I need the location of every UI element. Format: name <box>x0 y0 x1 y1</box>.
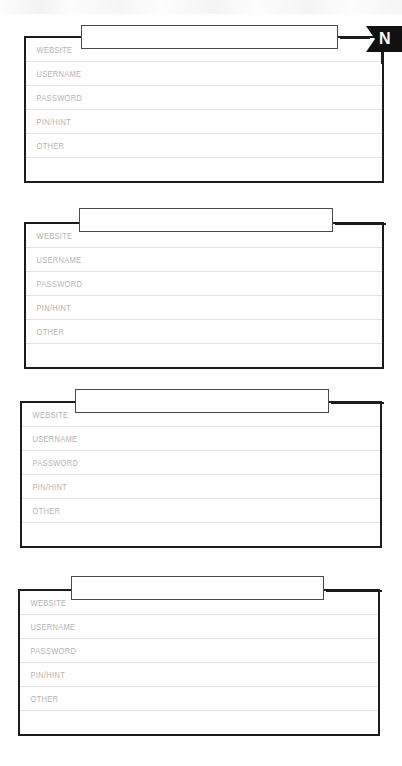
password-entry-card-3: WEBSITEUSERNAMEPASSWORDPIN/HINTOTHER <box>20 401 382 548</box>
field-label-pin-hint-2: PIN/HINT <box>26 303 71 313</box>
field-row-blank-1[interactable] <box>26 158 382 182</box>
field-row-blank-4[interactable] <box>20 711 378 735</box>
field-label-other-1: OTHER <box>26 141 64 151</box>
field-label-other-3: OTHER <box>22 506 60 516</box>
field-row-blank-2[interactable] <box>26 344 382 368</box>
field-row-other-1[interactable]: OTHER <box>26 134 382 158</box>
password-entry-card-1: WEBSITEUSERNAMEPASSWORDPIN/HINTOTHER <box>24 36 384 183</box>
field-row-other-4[interactable]: OTHER <box>20 687 378 711</box>
field-label-username-4: USERNAME <box>20 622 75 632</box>
password-log-page: WEBSITEUSERNAMEPASSWORDPIN/HINTOTHERWEBS… <box>0 0 402 766</box>
field-label-other-2: OTHER <box>26 327 64 337</box>
field-row-blank-3[interactable] <box>22 523 380 547</box>
field-rows-1: WEBSITEUSERNAMEPASSWORDPIN/HINTOTHER <box>26 38 382 182</box>
entry-title-box-2[interactable] <box>79 208 333 232</box>
field-rows-4: WEBSITEUSERNAMEPASSWORDPIN/HINTOTHER <box>20 591 378 735</box>
field-row-pin-hint-3[interactable]: PIN/HINT <box>22 475 380 499</box>
entry-title-box-4[interactable] <box>71 576 324 600</box>
field-label-pin-hint-1: PIN/HINT <box>26 117 71 127</box>
entry-title-box-3[interactable] <box>75 389 329 413</box>
field-row-pin-hint-2[interactable]: PIN/HINT <box>26 296 382 320</box>
field-label-password-4: PASSWORD <box>20 646 76 656</box>
field-label-password-2: PASSWORD <box>26 279 82 289</box>
field-row-pin-hint-4[interactable]: PIN/HINT <box>20 663 378 687</box>
field-rows-3: WEBSITEUSERNAMEPASSWORDPIN/HINTOTHER <box>22 403 380 547</box>
entry-title-box-1[interactable] <box>81 25 338 49</box>
field-row-password-2[interactable]: PASSWORD <box>26 272 382 296</box>
field-row-username-1[interactable]: USERNAME <box>26 62 382 86</box>
field-row-other-2[interactable]: OTHER <box>26 320 382 344</box>
field-label-username-2: USERNAME <box>26 255 81 265</box>
field-row-username-4[interactable]: USERNAME <box>20 615 378 639</box>
field-label-website-4: WEBSITE <box>20 598 66 608</box>
field-label-username-3: USERNAME <box>22 434 77 444</box>
entry-title-text-3 <box>76 390 328 412</box>
field-row-password-3[interactable]: PASSWORD <box>22 451 380 475</box>
field-label-other-4: OTHER <box>20 694 58 704</box>
field-label-website-1: WEBSITE <box>26 45 72 55</box>
field-label-pin-hint-4: PIN/HINT <box>20 670 65 680</box>
corner-tag-tick <box>381 50 384 64</box>
field-label-website-3: WEBSITE <box>22 410 68 420</box>
field-label-password-3: PASSWORD <box>22 458 78 468</box>
field-row-other-3[interactable]: OTHER <box>22 499 380 523</box>
entry-title-text-2 <box>80 209 332 231</box>
field-row-password-4[interactable]: PASSWORD <box>20 639 378 663</box>
field-row-password-1[interactable]: PASSWORD <box>26 86 382 110</box>
field-label-pin-hint-3: PIN/HINT <box>22 482 67 492</box>
field-row-username-3[interactable]: USERNAME <box>22 427 380 451</box>
entry-title-text-4 <box>72 577 323 599</box>
field-rows-2: WEBSITEUSERNAMEPASSWORDPIN/HINTOTHER <box>26 224 382 368</box>
corner-tag-letter: N <box>379 31 391 47</box>
field-row-username-2[interactable]: USERNAME <box>26 248 382 272</box>
field-label-username-1: USERNAME <box>26 69 81 79</box>
field-label-password-1: PASSWORD <box>26 93 82 103</box>
password-entry-card-2: WEBSITEUSERNAMEPASSWORDPIN/HINTOTHER <box>24 222 384 369</box>
field-row-pin-hint-1[interactable]: PIN/HINT <box>26 110 382 134</box>
field-label-website-2: WEBSITE <box>26 231 72 241</box>
entry-title-text-1 <box>82 26 337 48</box>
password-entry-card-4: WEBSITEUSERNAMEPASSWORDPIN/HINTOTHER <box>18 589 380 736</box>
